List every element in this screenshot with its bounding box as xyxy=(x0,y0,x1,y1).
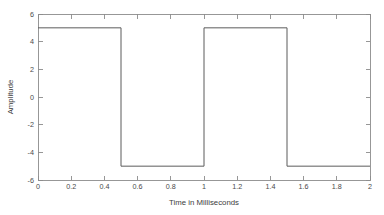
y-tick-label: -2 xyxy=(28,120,34,129)
y-tick-label: -6 xyxy=(28,176,34,185)
y-tick-label: 6 xyxy=(30,10,34,19)
x-tick-label: 1 xyxy=(202,182,206,191)
chart-figure: 0 0.2 0.4 0.6 0.8 1 1.2 1.4 1.6 1.8 2 6 … xyxy=(0,0,384,215)
x-tick-label: 1.4 xyxy=(265,182,275,191)
x-tick-label: 0.6 xyxy=(133,182,143,191)
y-tick-label: 4 xyxy=(30,37,34,46)
square-wave-plot: 0 0.2 0.4 0.6 0.8 1 1.2 1.4 1.6 1.8 2 6 … xyxy=(0,0,384,215)
x-tick-label: 1.8 xyxy=(332,182,342,191)
x-tick-label: 0.8 xyxy=(166,182,176,191)
y-tick-label: 0 xyxy=(30,93,34,102)
x-tick-label: 2 xyxy=(368,182,372,191)
x-tick-label: 0.4 xyxy=(99,182,109,191)
x-tick-label: 0.2 xyxy=(66,182,76,191)
x-tick-label: 1.2 xyxy=(232,182,242,191)
x-tick-label: 0 xyxy=(36,182,40,191)
y-tick-labels: 6 4 2 0 -2 -4 -6 xyxy=(28,10,34,185)
x-axis-title: Time in Milliseconds xyxy=(169,198,239,207)
x-tick-labels: 0 0.2 0.4 0.6 0.8 1 1.2 1.4 1.6 1.8 2 xyxy=(36,182,372,191)
x-tick-label: 1.6 xyxy=(299,182,309,191)
y-tick-label: 2 xyxy=(30,65,34,74)
y-axis-title: Amplitude xyxy=(6,80,15,115)
y-tick-label: -4 xyxy=(28,148,34,157)
